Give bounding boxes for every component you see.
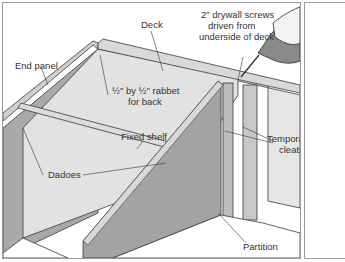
label-deck: Deck [141, 19, 163, 30]
label-rabbet-line2: for back [128, 96, 162, 107]
label-temporary-line2: cleats [279, 144, 301, 155]
label-partition: Partition [243, 241, 278, 252]
temporary-cleat [223, 83, 233, 218]
temporary-cleat [243, 85, 257, 220]
label-fixed-shelf: Fixed shelf [121, 131, 167, 142]
label-screws-line2: driven from [208, 20, 256, 31]
label-screws-line1: 2" drywall screws [201, 9, 274, 20]
label-rabbet-line1: ½" by ½" rabbet [112, 85, 179, 96]
label-temporary-line1: Temporary [267, 133, 301, 144]
label-dadoes: Dadoes [48, 169, 81, 180]
adjacent-figure-frame [304, 2, 345, 259]
label-end-panel: End panel [15, 60, 58, 71]
label-screws-line3: underside of deck [199, 31, 274, 42]
illustration-frame: Deck 2" drywall screws driven from under… [2, 2, 301, 259]
